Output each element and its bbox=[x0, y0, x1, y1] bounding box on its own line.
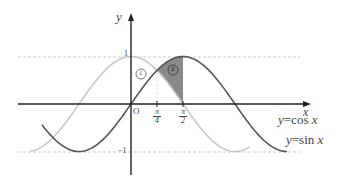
region2-digit: 2 bbox=[171, 66, 175, 73]
graph-canvas bbox=[0, 0, 347, 184]
shaded-region-2 bbox=[157, 57, 183, 105]
tick-label-pi2: π 2 bbox=[179, 108, 187, 125]
region1-digit: 1 bbox=[139, 70, 143, 77]
tick-label-1: 1 bbox=[124, 50, 128, 58]
y-axis-arrow-icon bbox=[128, 13, 134, 21]
origin-label: O bbox=[133, 107, 140, 116]
tick-label-minus1: −1 bbox=[118, 147, 127, 155]
cos-curve-label: y=cos xy=cos x bbox=[278, 113, 317, 126]
sin-curve-label: y=sin xy=sin x bbox=[286, 133, 323, 146]
pi4-denominator: 4 bbox=[153, 117, 161, 125]
pi2-denominator: 2 bbox=[179, 117, 187, 125]
y-axis-label: y bbox=[116, 10, 122, 23]
tick-label-pi4: π 4 bbox=[153, 108, 161, 125]
